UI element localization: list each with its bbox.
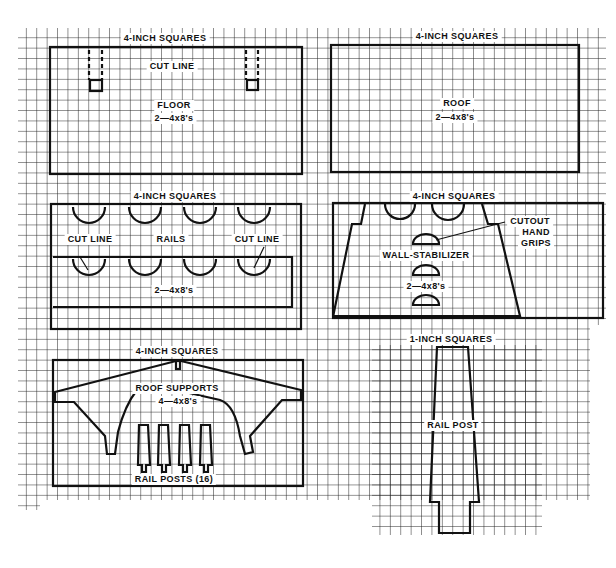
- wall-stabilizer-callout-3: GRIPS: [518, 238, 554, 249]
- rails-material: 2—4x8's: [152, 285, 197, 296]
- pattern-diagram: [0, 0, 616, 568]
- rails-part-name: RAILS: [154, 234, 189, 245]
- floor-scale-label: 4-INCH SQUARES: [121, 33, 210, 44]
- roof-supports-scale-label: 4-INCH SQUARES: [133, 346, 222, 357]
- roof-supports-material: 4—4x8's: [156, 396, 201, 407]
- wall-stabilizer-scale-label: 4-INCH SQUARES: [410, 191, 499, 202]
- rail-post-part-name: RAIL POST: [424, 420, 481, 431]
- roof-scale-label: 4-INCH SQUARES: [413, 31, 502, 42]
- floor-cut-line-label: CUT LINE: [147, 61, 198, 72]
- rail-post-scale-label: 1-INCH SQUARES: [407, 334, 496, 345]
- roof-part-name: ROOF: [440, 98, 474, 109]
- rail-posts-label: RAIL POSTS (16): [132, 474, 216, 485]
- wall-stabilizer-callout-2: HAND: [519, 227, 553, 238]
- roof-supports-part-name: ROOF SUPPORTS: [132, 383, 221, 394]
- floor-part-name: FLOOR: [154, 100, 194, 111]
- wall-stabilizer-part-name: WALL-STABILIZER: [380, 250, 473, 261]
- wall-stabilizer-material: 2—4x8's: [404, 281, 449, 292]
- wall-stabilizer-callout-1: CUTOUT: [507, 216, 553, 227]
- floor-material: 2—4x8's: [152, 113, 197, 124]
- rails-cut-line-left: CUT LINE: [65, 234, 116, 245]
- rails-scale-label: 4-INCH SQUARES: [131, 191, 220, 202]
- rails-cut-line-right: CUT LINE: [232, 234, 283, 245]
- roof-material: 2—4x8's: [433, 112, 478, 123]
- grid-rail-post: [372, 345, 542, 535]
